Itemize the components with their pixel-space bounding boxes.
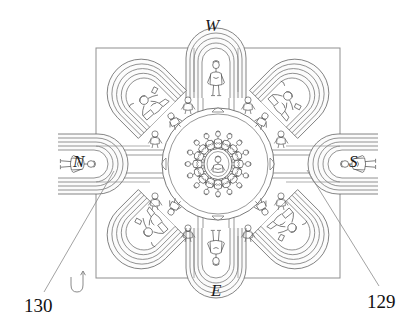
- south-arm-niche: [308, 134, 378, 194]
- compass-label-south: S: [349, 152, 358, 172]
- reference-numeral-130: 130: [24, 295, 53, 317]
- hook-arrow-marker: [71, 271, 85, 292]
- compass-label-east: E: [211, 281, 221, 301]
- west-arm-niche: [186, 28, 246, 98]
- compass-label-north: N: [73, 152, 84, 172]
- figure-root: W N S E 130 129: [0, 0, 419, 331]
- central-deity-medallion: [204, 149, 232, 180]
- compass-label-west: W: [205, 16, 219, 36]
- reference-numeral-129: 129: [367, 291, 396, 313]
- north-arm-niche: [58, 134, 128, 194]
